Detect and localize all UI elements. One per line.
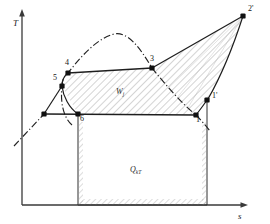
point-label-p1prime: 1' xyxy=(212,91,218,100)
point-label-p3: 3 xyxy=(150,54,154,63)
point-label-p4: 4 xyxy=(65,58,69,67)
point-p1: 1 xyxy=(193,112,200,124)
heat-region-bottom-hatch xyxy=(78,199,207,205)
heat-region-right-hatch xyxy=(202,122,207,205)
y-axis-label: T xyxy=(13,18,19,28)
point-p3: 3 xyxy=(149,54,154,71)
point-label-p2prime: 2' xyxy=(248,4,254,13)
point-label-p5: 5 xyxy=(53,73,57,82)
diagram-canvas: 2'3451'16 T s Wj QkT xyxy=(0,0,270,224)
point-marker-p3 xyxy=(149,65,154,70)
point-marker-p4 xyxy=(65,70,70,75)
point-marker-p5 xyxy=(59,83,64,88)
point-marker-p2prime xyxy=(240,13,245,18)
point-p4: 4 xyxy=(65,58,71,76)
line-leftpoint-to-5 xyxy=(44,86,62,114)
heat-area-label: QkT xyxy=(130,165,142,175)
lower-left-dashdot-line xyxy=(14,114,44,146)
point-label-p1: 1 xyxy=(196,115,200,124)
point-p6: 6 xyxy=(75,111,84,123)
lower-left-line-group xyxy=(14,86,62,146)
x-axis-label: s xyxy=(238,211,242,221)
heat-region-left-hatch xyxy=(78,122,83,205)
point-p2prime: 2' xyxy=(240,4,254,19)
heat-area-label-group: QkT xyxy=(130,165,142,175)
point-label-p6: 6 xyxy=(80,114,84,123)
point-marker-p1prime xyxy=(204,97,209,102)
point-pleft xyxy=(41,111,46,116)
heat-region-group xyxy=(78,100,207,205)
x-axis-arrow xyxy=(241,202,249,208)
point-marker-pleft xyxy=(41,111,46,116)
ts-diagram-figure: 2'3451'16 T s Wj QkT xyxy=(0,0,270,224)
y-axis-arrow xyxy=(19,9,25,17)
